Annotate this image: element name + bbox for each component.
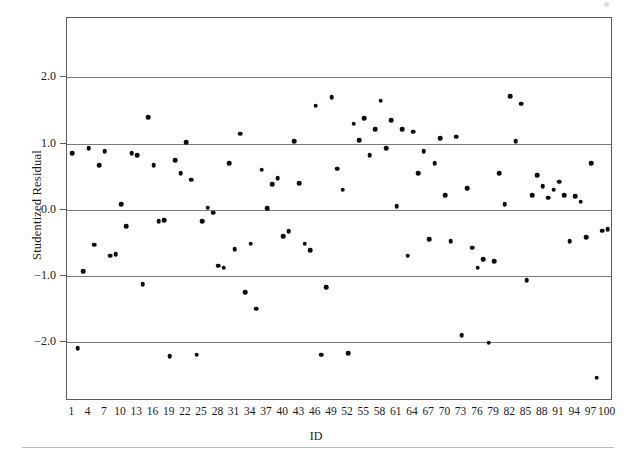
data-point (519, 102, 524, 107)
x-axis-tick-label: 28 (212, 405, 224, 417)
data-point (573, 194, 578, 199)
data-point (319, 352, 324, 357)
data-point (211, 211, 216, 216)
data-point (394, 204, 399, 209)
data-point (324, 285, 329, 290)
data-point (276, 176, 281, 181)
data-point (86, 146, 91, 151)
x-axis-tick-label: 52 (341, 405, 353, 417)
data-point (281, 234, 286, 239)
x-axis-tick-label: 55 (358, 405, 370, 417)
data-point (157, 219, 162, 224)
data-point (108, 253, 113, 258)
data-point (70, 151, 75, 156)
data-point (508, 94, 513, 99)
data-point (486, 341, 491, 346)
data-point (189, 177, 194, 182)
data-point (389, 118, 394, 123)
data-point (351, 121, 356, 126)
data-point (465, 186, 470, 191)
page-artifact (604, 2, 609, 7)
x-axis-tick-label: 61 (390, 405, 402, 417)
x-axis-tick-label: 73 (455, 405, 467, 417)
x-axis-tick-label: 7 (101, 405, 107, 417)
data-point (367, 153, 372, 158)
data-point (562, 193, 567, 198)
data-point (405, 253, 410, 258)
x-axis-tick-label: 13 (131, 405, 143, 417)
data-point (421, 149, 426, 154)
x-axis-tick-label: 40 (276, 405, 288, 417)
data-point (535, 173, 540, 178)
data-point (140, 282, 145, 287)
data-point (454, 135, 459, 140)
data-point (384, 146, 389, 151)
x-axis-tick-label: 25 (195, 405, 207, 417)
data-point (113, 252, 118, 257)
data-point (530, 193, 535, 198)
data-point (449, 239, 454, 244)
data-point (551, 187, 556, 192)
x-axis-tick-label: 10 (114, 405, 126, 417)
y-axis-tick-label: −2.0 (16, 335, 56, 347)
x-axis-tick-label: 88 (536, 405, 548, 417)
data-point (221, 265, 226, 270)
data-point (400, 127, 405, 132)
data-point (600, 228, 605, 233)
data-point (146, 115, 151, 120)
data-point (492, 259, 497, 264)
x-axis-tick-label: 37 (260, 405, 272, 417)
data-point (589, 161, 594, 166)
data-point (308, 248, 313, 253)
page-rule (22, 447, 614, 448)
data-point (313, 104, 318, 109)
data-point (594, 376, 599, 381)
data-point (513, 139, 518, 144)
x-axis-tick-label: 22 (179, 405, 191, 417)
plot-area (66, 17, 612, 400)
data-point (340, 187, 345, 192)
y-axis-tick-label: −1.0 (16, 269, 56, 281)
data-point (443, 193, 448, 198)
data-point (238, 131, 243, 136)
data-point (373, 127, 378, 132)
x-axis-tick-label: 16 (147, 405, 159, 417)
gridline (67, 210, 611, 211)
x-axis-tick-label: 64 (406, 405, 418, 417)
data-point (481, 257, 486, 262)
data-point (427, 237, 432, 242)
data-point (330, 95, 335, 100)
data-point (270, 182, 275, 187)
data-point (432, 161, 437, 166)
data-point (119, 202, 124, 207)
data-point (346, 351, 351, 356)
data-point (254, 306, 259, 311)
data-point (173, 158, 178, 163)
data-point (540, 184, 545, 189)
data-point (184, 140, 189, 145)
x-axis-tick-label: 79 (487, 405, 499, 417)
y-axis-tick-label: 1.0 (16, 137, 56, 149)
x-axis-tick-label: 76 (471, 405, 483, 417)
data-point (357, 138, 362, 143)
x-axis-tick-label: 1 (69, 405, 75, 417)
gridline (67, 144, 611, 145)
data-point (476, 265, 481, 270)
data-point (470, 246, 475, 251)
data-point (292, 139, 297, 144)
data-point (97, 163, 102, 168)
data-point (459, 333, 464, 338)
x-axis-tick-label: 4 (85, 405, 91, 417)
data-point (205, 205, 210, 210)
data-point (303, 242, 308, 247)
data-point (151, 163, 156, 168)
x-axis-tick-label: 100 (598, 405, 615, 417)
gridline (67, 77, 611, 78)
x-axis-tick-label: 82 (504, 405, 516, 417)
data-point (265, 206, 270, 211)
x-axis-tick-label: 43 (293, 405, 305, 417)
x-axis-tick-label: 49 (325, 405, 337, 417)
gridline (67, 342, 611, 343)
data-point (259, 168, 264, 173)
x-axis-tick-label: 46 (309, 405, 321, 417)
